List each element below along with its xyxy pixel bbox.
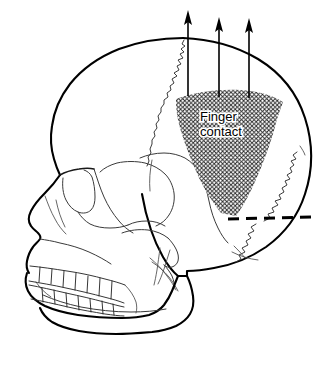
figure-background	[0, 0, 336, 381]
contact-label: Finger contact	[200, 109, 242, 139]
skull-figure: Finger contact	[0, 0, 336, 381]
contact-label-line-2: contact	[200, 124, 242, 139]
contact-label-line-1: Finger	[200, 109, 238, 124]
skull-illustration: Finger contact	[0, 0, 336, 381]
